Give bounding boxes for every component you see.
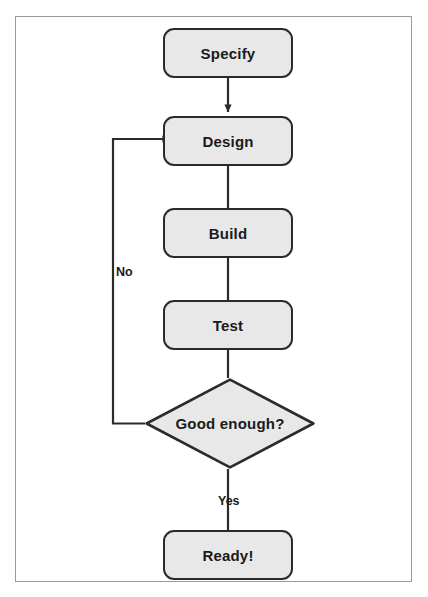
node-decision[interactable]: Good enough? <box>145 378 315 469</box>
figure-frame <box>15 16 412 582</box>
node-specify-label: Specify <box>201 46 256 61</box>
node-ready[interactable]: Ready! <box>163 530 293 580</box>
figure-page: Specify Design Build Test Good enough? R… <box>0 0 428 597</box>
node-design[interactable]: Design <box>163 116 293 166</box>
node-build-label: Build <box>209 226 248 241</box>
edge-label-no: No <box>116 266 133 279</box>
node-test-label: Test <box>213 318 244 333</box>
node-decision-label: Good enough? <box>145 378 315 469</box>
edge-label-yes: Yes <box>218 495 240 508</box>
node-design-label: Design <box>202 134 253 149</box>
node-specify[interactable]: Specify <box>163 28 293 78</box>
node-ready-label: Ready! <box>202 548 253 563</box>
node-build[interactable]: Build <box>163 208 293 258</box>
node-test[interactable]: Test <box>163 300 293 350</box>
